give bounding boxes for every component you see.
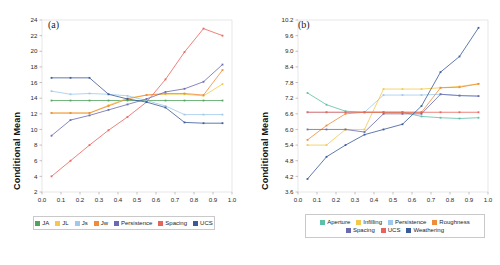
legend-item-jw[interactable]: Jw xyxy=(94,219,108,227)
legend-item-weathering[interactable]: Weathering xyxy=(406,226,444,234)
series-marker-ucs xyxy=(51,77,53,79)
series-marker-persistence xyxy=(383,94,385,96)
series-marker-ja xyxy=(203,100,205,102)
series-marker-spacing xyxy=(345,129,347,131)
plot-area xyxy=(298,20,488,192)
series-marker-spacing xyxy=(108,129,110,131)
legend-label: UCS xyxy=(388,226,401,234)
y-tick-label: 20 xyxy=(31,47,38,54)
legend-item-spacing[interactable]: Spacing xyxy=(346,226,375,234)
series-marker-jw xyxy=(108,105,110,107)
legend-item-aperture[interactable]: Aperture xyxy=(320,218,350,226)
series-marker-infilling xyxy=(421,88,423,90)
legend-swatch-icon xyxy=(381,228,386,233)
x-tick-label: 0.5 xyxy=(389,196,398,203)
legend-item-persistence[interactable]: Persistence xyxy=(114,219,152,227)
series-marker-persistence xyxy=(70,119,72,121)
legend-label: Weathering xyxy=(413,226,444,234)
legend-item-ja[interactable]: JA xyxy=(35,219,49,227)
series-marker-ucs xyxy=(402,111,404,113)
series-marker-ucs xyxy=(364,111,366,113)
series-marker-weathering xyxy=(402,123,404,125)
series-marker-spacing xyxy=(326,129,328,131)
series-marker-persistence xyxy=(184,88,186,90)
series-marker-ucs xyxy=(345,111,347,113)
legend-item-roughness[interactable]: Roughness xyxy=(432,218,469,226)
x-tick-label: 0.8 xyxy=(446,196,455,203)
legend-swatch-icon xyxy=(158,221,163,226)
series-marker-ucs xyxy=(203,122,205,124)
x-tick-label: 0.8 xyxy=(190,196,199,203)
y-tick-label: 10 xyxy=(31,126,38,133)
series-marker-spacing xyxy=(127,116,129,118)
legend-label: UCS xyxy=(200,219,213,227)
x-tick-label: 0.1 xyxy=(313,196,322,203)
y-tick-label: 7.2 xyxy=(285,94,294,101)
legend-item-infilling[interactable]: Infilling xyxy=(356,218,382,226)
legend-row-0: ApertureInfillingPersistenceRoughness xyxy=(317,218,472,226)
series-marker-ucs xyxy=(108,93,110,95)
legend-label: Aperture xyxy=(327,218,350,226)
legend-swatch-icon xyxy=(193,221,198,226)
plot-area xyxy=(42,20,232,192)
line-chart-a: 246810121416182022240.00.10.20.30.40.50.… xyxy=(0,0,250,215)
x-tick-label: 0.3 xyxy=(351,196,360,203)
series-marker-spacing xyxy=(421,113,423,115)
series-marker-infilling xyxy=(364,129,366,131)
y-tick-label: 4.2 xyxy=(285,173,294,180)
legend-swatch-icon xyxy=(406,228,411,233)
series-marker-js xyxy=(89,93,91,95)
series-marker-js xyxy=(70,93,72,95)
series-marker-persistence xyxy=(421,94,423,96)
series-marker-js xyxy=(127,95,129,97)
legend-label: Js xyxy=(82,219,88,227)
series-marker-ucs xyxy=(146,101,148,103)
series-marker-roughness xyxy=(440,87,442,89)
series-marker-weathering xyxy=(421,105,423,107)
y-tick-label: 9.6 xyxy=(285,32,294,39)
series-marker-ucs xyxy=(440,111,442,113)
series-marker-aperture xyxy=(326,104,328,106)
legend-label: JL xyxy=(62,219,68,227)
y-tick-label: 16 xyxy=(31,79,38,86)
x-tick-label: 0.2 xyxy=(332,196,341,203)
legend-item-ucs[interactable]: UCS xyxy=(193,219,213,227)
y-axis-label-a: Conditional Mean xyxy=(12,112,22,190)
legend-swatch-icon xyxy=(114,221,119,226)
series-marker-spacing xyxy=(307,129,309,131)
series-marker-jw xyxy=(146,94,148,96)
series-marker-persistence xyxy=(89,114,91,116)
y-tick-label: 7.8 xyxy=(285,79,294,86)
panel-label-a: (a) xyxy=(48,19,59,30)
y-tick-label: 4 xyxy=(34,173,38,180)
x-tick-label: 0.5 xyxy=(133,196,142,203)
series-marker-aperture xyxy=(421,116,423,118)
legend-label: Jw xyxy=(101,219,108,227)
series-marker-js xyxy=(203,114,205,116)
series-marker-roughness xyxy=(307,139,309,141)
y-axis-label-b: Conditional Mean xyxy=(260,112,270,190)
legend-item-spacing[interactable]: Spacing xyxy=(158,219,187,227)
series-marker-ucs xyxy=(70,77,72,79)
series-marker-weathering xyxy=(345,144,347,146)
series-marker-js xyxy=(222,114,224,116)
legend-item-js[interactable]: Js xyxy=(75,219,88,227)
series-marker-spacing xyxy=(383,113,385,115)
y-tick-label: 18 xyxy=(31,63,38,70)
legend-swatch-icon xyxy=(55,221,60,226)
series-marker-js xyxy=(165,105,167,107)
legend-item-persistence[interactable]: Persistence xyxy=(388,218,426,226)
y-tick-label: 6.0 xyxy=(285,126,294,133)
legend-item-jl[interactable]: JL xyxy=(55,219,68,227)
x-tick-label: 0.0 xyxy=(38,196,47,203)
y-tick-label: 8 xyxy=(34,141,38,148)
legend-swatch-icon xyxy=(35,221,40,226)
series-marker-weathering xyxy=(383,129,385,131)
legend-label: JA xyxy=(42,219,49,227)
legend-swatch-icon xyxy=(356,220,361,225)
series-marker-ucs xyxy=(326,111,328,113)
y-tick-label: 2 xyxy=(34,188,38,195)
y-tick-label: 6.6 xyxy=(285,110,294,117)
series-marker-ucs xyxy=(307,111,309,113)
legend-item-ucs[interactable]: UCS xyxy=(381,226,401,234)
